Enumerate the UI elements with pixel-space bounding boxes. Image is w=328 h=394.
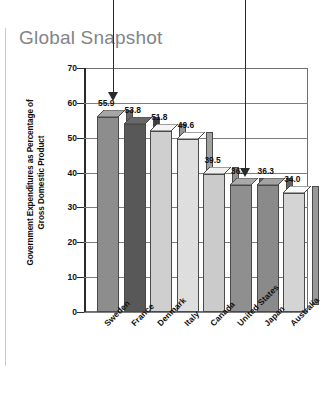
y-axis-tick (77, 207, 84, 208)
bar-denmark (150, 124, 179, 312)
bar-value-label: 49.6 (178, 121, 194, 130)
y-axis-tick (77, 173, 84, 174)
bar-australia (283, 186, 312, 312)
y-axis-tick (77, 138, 84, 139)
page-title: Global Snapshot (19, 27, 163, 49)
bar-united-states (230, 178, 259, 312)
bar-top-face (150, 124, 179, 132)
bar-canada (203, 167, 232, 312)
bar-front-face (150, 131, 172, 312)
y-axis-tick (77, 68, 84, 69)
y-axis-tick-label-text: 10 (51, 273, 77, 281)
bar-value-label: 39.5 (204, 156, 220, 165)
arrow-pointing-to-united-states (240, 0, 251, 177)
bar-front-face (283, 193, 305, 312)
bar-front-face (124, 124, 146, 312)
bar-top-face (230, 178, 259, 186)
gridline (84, 103, 308, 104)
bar-front-face (177, 139, 199, 312)
bar-top-face (177, 132, 206, 140)
bar-value-label: 36.3 (258, 167, 274, 176)
bar-value-label: 51.8 (151, 113, 167, 122)
bar-top-face (97, 110, 126, 118)
bar-top-face (124, 117, 153, 125)
bar-italy (177, 132, 206, 312)
y-axis-tick-label-text: 20 (51, 238, 77, 246)
bar-front-face (203, 174, 225, 312)
bar-france (124, 117, 153, 312)
y-axis-title: Government Expenditures as Percentage of… (26, 88, 47, 278)
y-axis-tick (77, 103, 84, 104)
bar-front-face (230, 185, 252, 312)
chart-page: Global Snapshot 706050403020100 Governme… (0, 0, 328, 394)
y-axis-tick (77, 277, 84, 278)
y-axis-tick-label-text: 30 (51, 203, 77, 211)
y-axis-tick (77, 312, 84, 313)
y-axis-tick-label-text: 50 (51, 134, 77, 142)
bar-front-face (97, 117, 119, 312)
page-left-rule (5, 28, 6, 366)
bar-value-label: 53.8 (125, 106, 141, 115)
bar-side-face (312, 186, 319, 305)
y-axis-tick-label-text: 70 (51, 64, 77, 72)
y-axis-tick (77, 242, 84, 243)
bar-top-face (283, 186, 312, 194)
bar-sweden (97, 110, 126, 312)
bar-value-label: 34.0 (284, 175, 300, 184)
bar-top-face (203, 167, 232, 175)
y-axis-tick-label-text: 0 (51, 308, 77, 316)
bar-top-face (257, 178, 286, 186)
y-axis-tick-label-text: 40 (51, 169, 77, 177)
arrow-pointing-to-sweden (108, 0, 119, 101)
y-axis-tick-label-text: 60 (51, 99, 77, 107)
